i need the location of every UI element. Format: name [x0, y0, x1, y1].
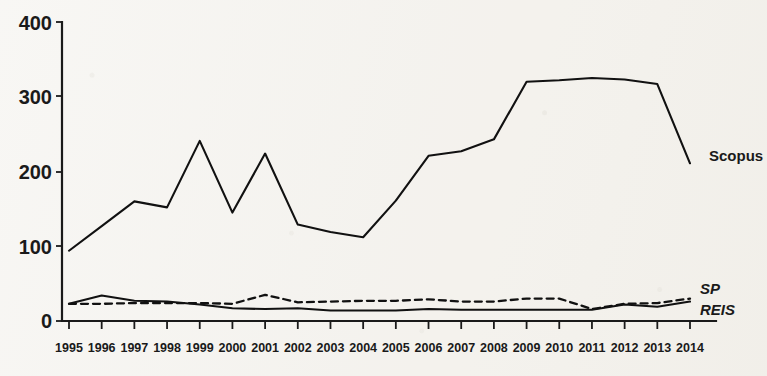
line-chart-canvas: 400 300 200 100 0 1995199619971998199920…: [0, 0, 767, 376]
x-tick-label-2004: 2004: [349, 341, 377, 355]
y-tick-label-200: 200: [19, 161, 52, 183]
x-axis-tick-labels: 1995199619971998199920002001200220032004…: [55, 341, 704, 355]
x-tick-label-2012: 2012: [611, 341, 639, 355]
x-tick-label-1997: 1997: [120, 341, 148, 355]
x-tick-label-2003: 2003: [317, 341, 345, 355]
x-tick-label-2001: 2001: [251, 341, 279, 355]
y-tick-label-300: 300: [19, 86, 52, 108]
x-tick-label-1995: 1995: [55, 341, 83, 355]
series-line-scopus: [69, 78, 690, 251]
series-label-sp: SP: [700, 280, 721, 297]
chart-figure: 400 300 200 100 0 1995199619971998199920…: [0, 0, 767, 376]
x-tick-label-2013: 2013: [643, 341, 671, 355]
x-tick-label-2005: 2005: [382, 341, 410, 355]
x-axis-ticks: [69, 321, 690, 329]
x-tick-label-2008: 2008: [480, 341, 508, 355]
x-tick-label-2000: 2000: [219, 341, 247, 355]
x-tick-label-1996: 1996: [88, 341, 116, 355]
y-tick-label-100: 100: [19, 236, 52, 258]
x-tick-label-1998: 1998: [153, 341, 181, 355]
series-line-reis: [69, 296, 690, 311]
x-tick-label-2009: 2009: [513, 341, 541, 355]
x-tick-label-2011: 2011: [578, 341, 605, 355]
y-tick-label-0: 0: [41, 310, 52, 332]
x-tick-label-2010: 2010: [545, 341, 573, 355]
x-tick-label-2006: 2006: [415, 341, 443, 355]
series-label-reis: REIS: [700, 301, 735, 318]
series-label-scopus: Scopus: [709, 147, 763, 164]
x-tick-label-2014: 2014: [676, 341, 704, 355]
y-axis-tick-labels: 400 300 200 100 0: [19, 12, 52, 332]
y-tick-label-400: 400: [19, 12, 52, 34]
x-tick-label-2007: 2007: [447, 341, 475, 355]
x-tick-label-2002: 2002: [284, 341, 312, 355]
x-tick-label-1999: 1999: [186, 341, 214, 355]
